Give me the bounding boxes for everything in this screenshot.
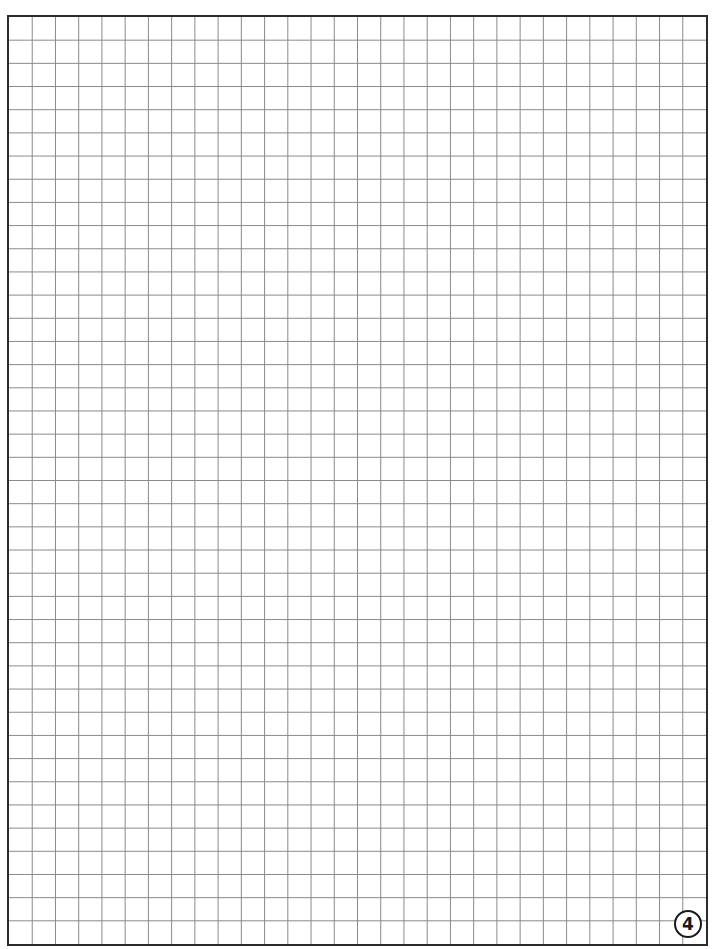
grid-lines <box>9 17 706 944</box>
page-number: 4 <box>682 916 694 933</box>
graph-paper-sheet <box>7 15 708 946</box>
page-number-badge: 4 <box>674 910 702 938</box>
grid-svg <box>9 17 706 944</box>
